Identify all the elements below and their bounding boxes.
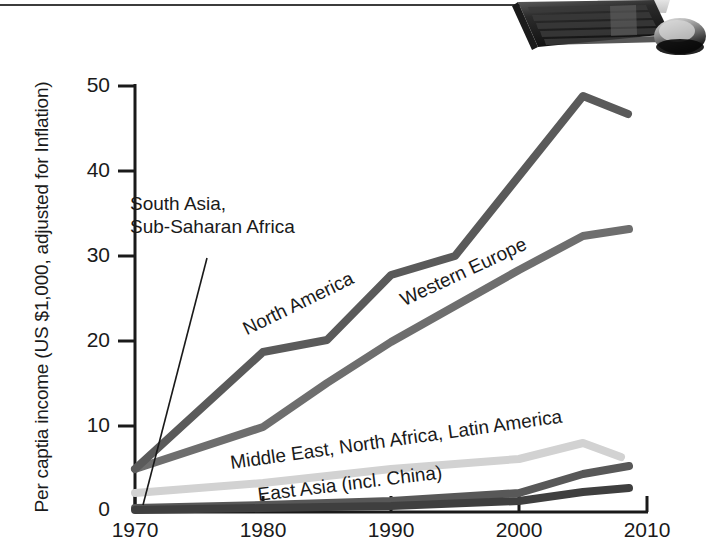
y-tick-label-10: 10 <box>58 413 110 437</box>
x-tick-label-1990: 1990 <box>341 518 441 542</box>
x-tick-label-1980: 1980 <box>213 518 313 542</box>
x-tick-label-2010: 2010 <box>597 518 697 542</box>
y-tick-label-20: 20 <box>58 328 110 352</box>
x-tick-label-1970: 1970 <box>85 518 185 542</box>
y-axis-ticks <box>118 86 135 426</box>
annotation-line-2: Sub-Saharan Africa <box>130 215 295 238</box>
y-axis-label: Per captia income (US $1,000, adjusted f… <box>31 62 53 532</box>
annotation-leader-line <box>143 258 207 505</box>
y-tick-label-30: 30 <box>58 243 110 267</box>
annotation-south-asia-sub-saharan-africa: South Asia, Sub-Saharan Africa <box>130 192 295 238</box>
figure-container: Per captia income (US $1,000, adjusted f… <box>0 0 709 560</box>
y-tick-label-50: 50 <box>58 73 110 97</box>
x-tick-label-2000: 2000 <box>469 518 569 542</box>
y-tick-label-40: 40 <box>58 158 110 182</box>
annotation-line-1: South Asia, <box>130 192 295 215</box>
